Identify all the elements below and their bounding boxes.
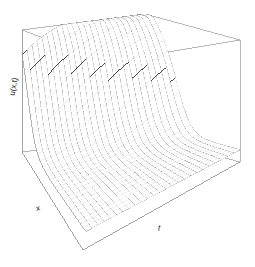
surface-plot-svg: x t u(x,t)	[0, 0, 255, 267]
z-axis-label: u(x,t)	[8, 76, 20, 96]
x-axis-label: x	[35, 203, 41, 213]
persp-plot-root: x t u(x,t)	[0, 0, 255, 267]
surface-mesh	[22, 14, 240, 231]
t-axis-label: t	[157, 223, 162, 232]
